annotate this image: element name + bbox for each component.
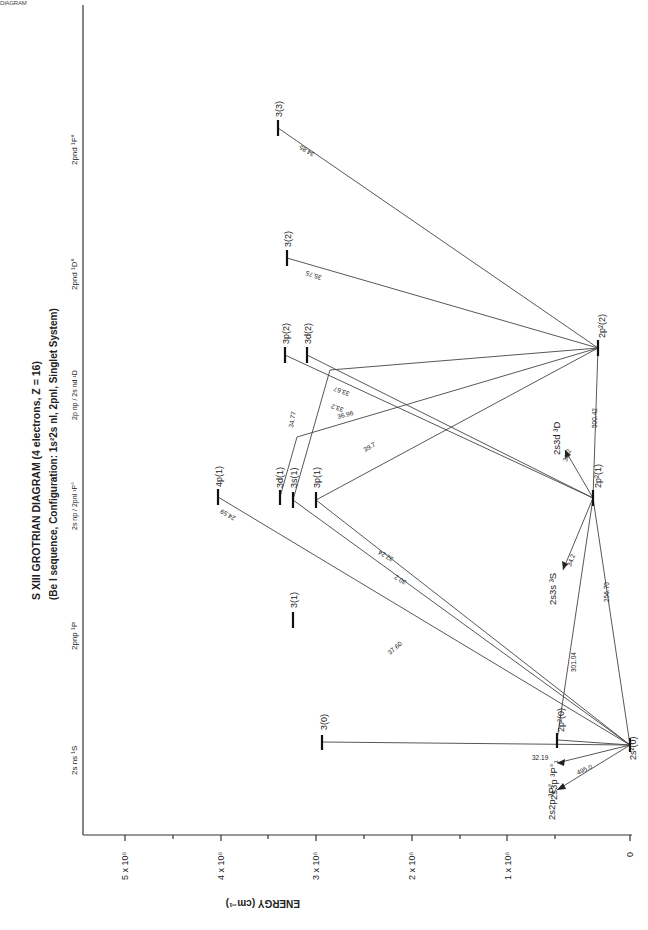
transition-label-37.60: 37.60 bbox=[386, 640, 403, 656]
level-label-3d-2: 3d(2) bbox=[303, 323, 313, 344]
transition-label-33.2: 33.2 bbox=[330, 403, 345, 414]
transition-label-495.0: 495.0 bbox=[575, 763, 593, 776]
transition-label-32.24: 32.24 bbox=[377, 549, 395, 563]
level-label-3p-1: 3p(1) bbox=[312, 467, 322, 488]
column-label-2pnd-1Fo: 2pnd ¹F° bbox=[70, 134, 79, 165]
level-label-3-3: 3(3) bbox=[274, 101, 284, 117]
column-label-2pnp-1P: 2pnp ¹P bbox=[70, 622, 79, 650]
axis-title: ENERGY (cm⁻¹) bbox=[226, 898, 300, 909]
transition-label-30.2: 30.2 bbox=[393, 574, 408, 587]
tick-label-1e6: 1 x 10⁶ bbox=[503, 851, 513, 880]
level-label-2p2-0: 2p²(0) bbox=[556, 708, 566, 732]
level-label-2s2p-3P: 2s2p ³P° bbox=[546, 783, 557, 820]
tick-label-5e6: 5 x 10⁶ bbox=[120, 851, 130, 880]
arrowheads bbox=[557, 450, 571, 790]
level-label-3-1: 3(1) bbox=[289, 592, 299, 608]
transition-label-35.75: 35.75 bbox=[304, 269, 322, 281]
level-label-3d-1: 3d(1) bbox=[275, 467, 285, 488]
tick-label-2e6: 2 x 10⁶ bbox=[407, 851, 417, 880]
transition-label-39.7: 39.7 bbox=[362, 440, 377, 453]
grotrian-diagram: 5 x 10⁶ 4 x 10⁶ 3 x 10⁶ 2 x 10⁶ 1 x 10⁶ … bbox=[0, 0, 648, 930]
level-label-3-0: 3(0) bbox=[319, 714, 329, 730]
diagram-subtitle: (Be I sequence, Configuration: 1s²2s nl,… bbox=[48, 308, 59, 600]
axis-ticks bbox=[125, 835, 630, 841]
column-label-2snp-1Po: 2s np / 2pnl ¹P° bbox=[71, 482, 79, 530]
transition-label-301.04: 301.04 bbox=[570, 652, 577, 672]
transition-label-500.42: 500.42 bbox=[591, 408, 598, 428]
level-label-4p-1: 4p(1) bbox=[214, 466, 224, 487]
tick-label-0: 0 bbox=[625, 852, 635, 857]
column-label-2sns-1S: 2s ns ¹S bbox=[70, 746, 79, 775]
level-label-3p-2: 3p(2) bbox=[281, 323, 291, 344]
levels bbox=[218, 120, 630, 752]
level-label-2s3d-3D: 2s3d ³D bbox=[551, 422, 562, 455]
level-label-2s2-0: 2s²(0) bbox=[628, 736, 638, 760]
column-label-2pnp-1D: 2p np / 2s nd ¹D bbox=[71, 370, 79, 420]
tick-label-4e6: 4 x 10⁶ bbox=[216, 851, 226, 880]
column-label-2pnd-1Do: 2pnd ¹D° bbox=[70, 258, 79, 290]
transition-label-34.85: 34.85 bbox=[298, 144, 316, 158]
tick-label-3e6: 3 x 10⁶ bbox=[311, 851, 321, 880]
level-label-3s-1: 3s(1) bbox=[289, 467, 299, 488]
transition-label-33.67: 33.67 bbox=[332, 385, 350, 397]
level-label-2s3s-3S: 2s3s ³S bbox=[547, 573, 558, 605]
transition-label-32.19: 32.19 bbox=[532, 754, 549, 761]
transition-label-34.77: 34.77 bbox=[287, 411, 297, 429]
transition-label-24.59: 24.59 bbox=[219, 508, 237, 522]
level-label-2p2-1: 2p²(1) bbox=[593, 464, 603, 488]
level-label-2p2-2: 2p²(2) bbox=[597, 314, 607, 338]
diagram-title: S XIII GROTRIAN DIAGRAM (4 electrons, Z … bbox=[30, 361, 42, 600]
transition-label-256.70: 256.70 bbox=[603, 582, 610, 602]
level-label-3-2: 3(2) bbox=[283, 231, 293, 247]
